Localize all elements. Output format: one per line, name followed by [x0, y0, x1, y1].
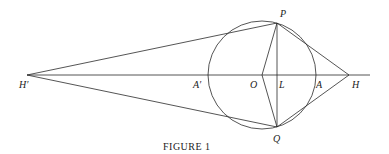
tangent-H-Q	[277, 75, 349, 127]
label-A-prime: A′	[192, 79, 202, 90]
label-A: A	[315, 79, 323, 90]
figure-caption: FIGURE 1	[163, 141, 211, 152]
radius-OQ	[262, 75, 277, 127]
line-H-prime-Q	[27, 75, 277, 127]
line-H-prime-P	[27, 23, 277, 75]
figure-diagram: P Q O L A A′ H H′ FIGURE 1	[0, 0, 389, 154]
label-O: O	[250, 79, 257, 90]
label-P: P	[279, 8, 286, 19]
label-H: H	[351, 79, 360, 90]
label-L: L	[278, 79, 285, 90]
label-Q: Q	[273, 133, 281, 144]
label-H-prime: H′	[18, 79, 29, 90]
radius-OP	[262, 23, 277, 75]
tangent-H-P	[277, 23, 349, 75]
